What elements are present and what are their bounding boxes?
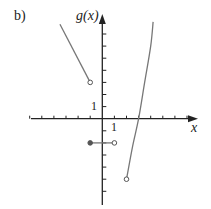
y-axis-label: g(x): [76, 8, 99, 24]
x-tick-label: 1: [111, 120, 117, 135]
closed-dot-icon: [88, 141, 93, 146]
open-circle-icon: [88, 80, 93, 85]
panel-label: b): [14, 8, 26, 24]
y-axis-arrow-icon: [99, 14, 106, 24]
y-tick-label: 1: [91, 99, 97, 114]
axes: [30, 14, 198, 205]
open-circle-icon: [112, 141, 117, 146]
series-left-segment: [60, 24, 90, 82]
open-circle-icon: [124, 177, 129, 182]
x-axis-label: x: [191, 120, 197, 136]
plot-series: [60, 22, 153, 182]
graph-of-g: [0, 0, 211, 209]
series-right-curve: [127, 22, 154, 179]
